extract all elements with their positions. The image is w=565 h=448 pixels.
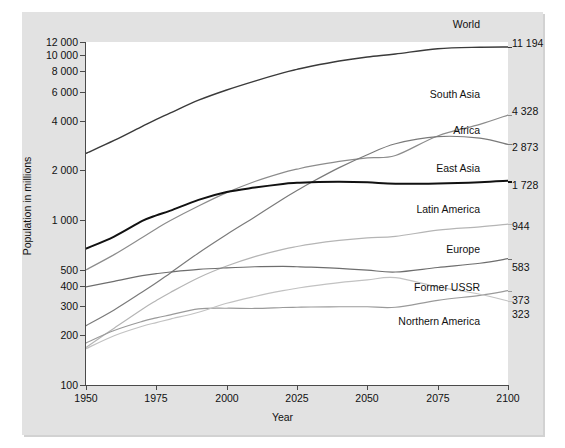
y-tick-label: 200	[0, 330, 78, 340]
series-leader-world	[508, 47, 512, 48]
y-tick-label-wrap: 2 000	[0, 165, 78, 175]
series-label-africa: Africa	[300, 124, 480, 136]
y-tick-mark	[80, 42, 85, 43]
x-tick-label: 1950	[56, 392, 116, 404]
y-tick-label-wrap: 8 000	[0, 66, 78, 76]
series-leader-south-asia	[508, 115, 512, 116]
y-tick-label-wrap: 400	[0, 281, 78, 291]
chart-figure: 1002003004005001 0002 0004 0006 0008 000…	[0, 0, 565, 448]
series-label-northern-america: Northern America	[300, 315, 480, 327]
y-tick-mark	[80, 170, 85, 171]
x-tick-mark	[508, 385, 509, 390]
series-line-world	[86, 47, 508, 153]
x-tick-label: 2025	[267, 392, 327, 404]
y-axis-line	[85, 42, 86, 386]
series-label-east-asia: East Asia	[300, 162, 480, 174]
y-tick-label: 2 000	[0, 165, 78, 175]
series-label-latin-america: Latin America	[300, 203, 480, 215]
y-tick-label: 100	[0, 380, 78, 390]
end-value-northern-america: 323	[512, 308, 530, 320]
y-tick-label: 500	[0, 265, 78, 275]
series-leader-northern-america	[508, 301, 512, 302]
y-axis-title: Population in millions	[21, 136, 33, 276]
y-tick-label: 12 000	[0, 37, 78, 47]
y-tick-label-wrap: 6 000	[0, 87, 78, 97]
y-tick-label: 6 000	[0, 87, 78, 97]
series-label-former-ussr: Former USSR	[300, 281, 480, 293]
end-value-africa: 2 873	[512, 141, 538, 153]
end-value-former-ussr: 373	[512, 294, 530, 306]
y-tick-label: 400	[0, 281, 78, 291]
series-label-world: World	[300, 18, 480, 30]
x-tick-label: 1975	[126, 392, 186, 404]
y-tick-label: 8 000	[0, 66, 78, 76]
y-tick-mark	[80, 121, 85, 122]
y-tick-label-wrap: 4 000	[0, 116, 78, 126]
end-value-latin-america: 944	[512, 220, 530, 232]
end-value-east-asia: 1 728	[512, 179, 538, 191]
end-value-world: 11 194	[512, 37, 543, 49]
y-tick-label: 1 000	[0, 215, 78, 225]
end-value-europe: 583	[512, 261, 530, 273]
y-tick-mark	[80, 385, 85, 386]
y-tick-mark	[80, 286, 85, 287]
y-tick-mark	[80, 220, 85, 221]
y-tick-label: 4 000	[0, 116, 78, 126]
x-tick-mark	[297, 385, 298, 390]
x-tick-label: 2075	[408, 392, 468, 404]
y-tick-label: 300	[0, 301, 78, 311]
series-label-europe: Europe	[300, 243, 480, 255]
y-tick-mark	[80, 92, 85, 93]
x-tick-mark	[156, 385, 157, 390]
y-tick-label-wrap: 1 000	[0, 215, 78, 225]
y-tick-mark	[80, 71, 85, 72]
y-tick-label-wrap: 500	[0, 265, 78, 275]
y-tick-label: 10 000	[0, 50, 78, 60]
y-tick-label-wrap: 10 000	[0, 50, 78, 60]
series-label-south-asia: South Asia	[300, 88, 480, 100]
series-leader-east-asia	[508, 181, 512, 183]
x-tick-mark	[438, 385, 439, 390]
y-tick-mark	[80, 55, 85, 56]
x-tick-mark	[367, 385, 368, 390]
series-leader-europe	[508, 259, 512, 260]
y-tick-label-wrap: 300	[0, 301, 78, 311]
y-tick-label-wrap: 100	[0, 380, 78, 390]
y-tick-mark	[80, 270, 85, 271]
x-tick-label: 2100	[478, 392, 538, 404]
series-leader-former-ussr	[508, 291, 512, 292]
series-leader-africa	[508, 144, 512, 145]
x-tick-mark	[227, 385, 228, 390]
x-tick-label: 2000	[197, 392, 257, 404]
x-tick-mark	[86, 385, 87, 390]
end-value-south-asia: 4 328	[512, 105, 538, 117]
series-leader-latin-america	[508, 224, 512, 225]
y-tick-mark	[80, 335, 85, 336]
x-axis-title: Year	[0, 411, 565, 423]
y-tick-label-wrap: 200	[0, 330, 78, 340]
y-tick-mark	[80, 306, 85, 307]
y-tick-label-wrap: 12 000	[0, 37, 78, 47]
x-tick-label: 2050	[337, 392, 397, 404]
